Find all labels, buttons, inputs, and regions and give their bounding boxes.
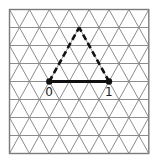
label-zero: 0: [45, 85, 53, 99]
label-one: 1: [105, 85, 113, 99]
point-labels: 0 1: [45, 85, 112, 99]
grid-diagonal-line: [149, 10, 157, 154]
diagram-canvas: 0 1: [0, 0, 157, 163]
triangle-edges: [49, 28, 109, 82]
grid-diagonal-line: [149, 10, 157, 154]
grid-diagonal-line: [0, 10, 10, 154]
grid-diagonal-line: [0, 10, 10, 154]
